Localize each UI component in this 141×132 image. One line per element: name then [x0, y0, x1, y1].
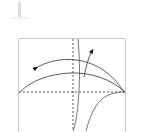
steep-descending-curve-left	[73, 39, 80, 131]
lower-arc-rightward	[20, 73, 125, 92]
figure-container	[0, 0, 141, 131]
steep-descending-curve-right	[86, 92, 125, 131]
plot-frame	[19, 39, 126, 132]
phase-plane-diagram	[0, 0, 141, 131]
